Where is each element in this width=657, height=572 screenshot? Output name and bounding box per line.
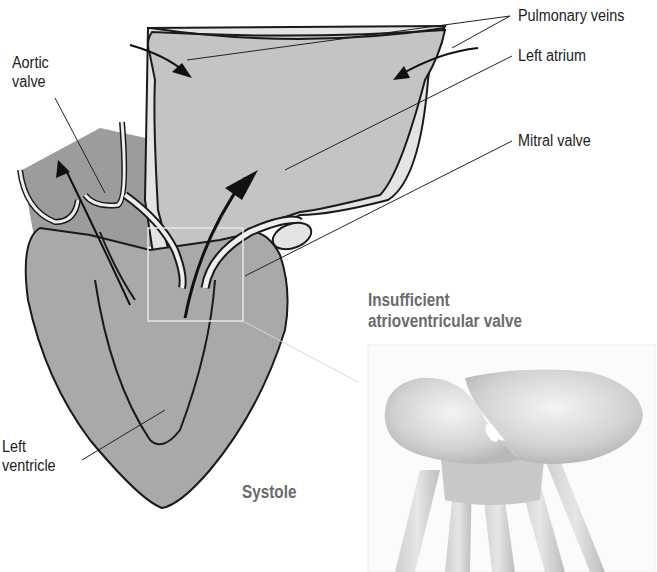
aortic-valve-label-line2: valve [12, 72, 49, 91]
left-ventricle-label: Left ventricle [2, 437, 56, 475]
inset-title: Insufficient atrioventricular valve [368, 290, 522, 332]
inset-title-line2: atrioventricular valve [368, 311, 522, 332]
left-ventricle-wall [26, 228, 288, 508]
mitral-valve-label: Mitral valve [518, 131, 591, 150]
left-ventricle-label-line1: Left [2, 437, 56, 456]
aortic-valve-label-line1: Aortic [12, 53, 49, 72]
left-ventricle-label-line2: ventricle [2, 456, 56, 475]
left-atrium-label: Left atrium [518, 46, 586, 65]
inset-title-line1: Insufficient [368, 290, 522, 311]
heart-systole-diagram: Aortic valve Pulmonary veins Left atrium… [0, 0, 657, 572]
pulmonary-veins-label: Pulmonary veins [518, 6, 624, 25]
aortic-valve-label: Aortic valve [12, 53, 49, 91]
systole-caption: Systole [242, 482, 296, 503]
heart-illustration [0, 0, 657, 572]
